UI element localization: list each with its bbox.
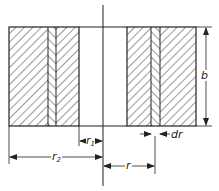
right-wall-section (127, 27, 196, 126)
r1-label: r1 (86, 135, 95, 148)
dr-label: dr (170, 129, 184, 140)
r-label: r (125, 160, 132, 171)
b-label: b (200, 70, 209, 81)
diagram-svg (0, 0, 219, 191)
r2-label: r2 (51, 151, 62, 164)
r2-label-sub: 2 (57, 156, 61, 164)
hollow-cylinder-diagram: b r1 r2 r dr (0, 0, 219, 191)
left-wall-section (9, 27, 79, 126)
r1-label-sub: 1 (91, 140, 95, 148)
